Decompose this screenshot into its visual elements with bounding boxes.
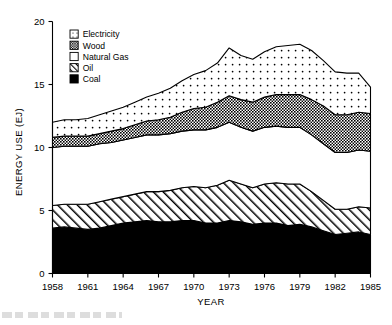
x-tick-label-1970: 1970 [183, 281, 204, 292]
x-tick-label-1964: 1964 [113, 281, 134, 292]
oil-swatch [70, 64, 78, 72]
x-tick-label-1967: 1967 [148, 281, 169, 292]
legend-label-wood: Wood [83, 41, 106, 51]
y-axis-title: ENERGY USE (EJ) [13, 108, 24, 196]
y-tick-label-10: 10 [34, 142, 45, 153]
x-tick-label-1979: 1979 [289, 281, 310, 292]
legend-label-coal: Coal [83, 74, 101, 84]
y-axis: 05101520 [34, 16, 53, 279]
x-tick-label-1982: 1982 [325, 281, 346, 292]
coal-swatch [70, 75, 78, 83]
x-tick-label-1976: 1976 [254, 281, 275, 292]
natural-gas-swatch [70, 52, 78, 60]
chart-figure: 05101520 1958196119641967197019731976197… [0, 0, 392, 325]
x-tick-label-1973: 1973 [219, 281, 240, 292]
legend-label-natural-gas: Natural Gas [83, 52, 129, 62]
x-tick-label-1958: 1958 [42, 281, 63, 292]
legend-label-electricity: Electricity [83, 29, 120, 39]
x-tick-label-1985: 1985 [360, 281, 381, 292]
electricity-swatch [70, 30, 78, 38]
x-tick-label-1961: 1961 [77, 281, 98, 292]
y-tick-label-20: 20 [34, 16, 45, 27]
wood-swatch [70, 41, 78, 49]
legend-label-oil: Oil [83, 63, 94, 73]
y-tick-label-15: 15 [34, 79, 45, 90]
caption-fragment [2, 312, 122, 318]
x-axis-title: YEAR [197, 296, 224, 307]
y-tick-label-5: 5 [39, 205, 44, 216]
chart-legend: ElectricityWoodNatural GasOilCoal [70, 29, 129, 84]
energy-use-stacked-area-chart: 05101520 1958196119641967197019731976197… [0, 0, 392, 325]
x-axis: 1958196119641967197019731976197919821985 [42, 274, 381, 292]
y-tick-label-0: 0 [39, 268, 44, 279]
